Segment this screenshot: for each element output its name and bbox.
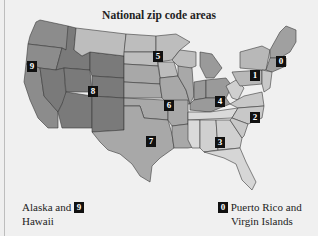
zone-badge-4: 4 — [215, 96, 225, 107]
zone-5-region — [74, 28, 126, 56]
zone-badge-3: 3 — [215, 137, 225, 148]
zone-0-region — [270, 26, 296, 58]
zone-badge-9: 9 — [27, 61, 37, 72]
zone-badge-5: 5 — [153, 51, 163, 62]
legend-alaska-line2: Hawaii — [22, 215, 54, 227]
zone-badge-2: 2 — [250, 112, 260, 123]
legend-alaska-line1: Alaska and — [22, 201, 71, 213]
zone-badge-0: 0 — [276, 56, 286, 67]
legend-alaska-hawaii: Alaska and 9 Hawaii — [22, 200, 84, 228]
zone-6-region — [124, 64, 160, 84]
legend-puerto-rico-badge: 0 — [218, 202, 228, 213]
zone-4-region — [200, 52, 222, 78]
legend-puerto-rico-line1: Puerto Rico and — [231, 201, 302, 213]
legend-puerto-rico: 0 Puerto Rico and Virgin Islands — [218, 200, 302, 228]
zone-badge-8: 8 — [88, 86, 98, 97]
legend-puerto-rico-line2: Virgin Islands — [218, 215, 293, 227]
legend-alaska-badge: 9 — [74, 202, 84, 213]
zone-badge-1: 1 — [250, 70, 260, 81]
zone-badge-6: 6 — [164, 100, 174, 111]
zone-badge-7: 7 — [146, 136, 156, 147]
